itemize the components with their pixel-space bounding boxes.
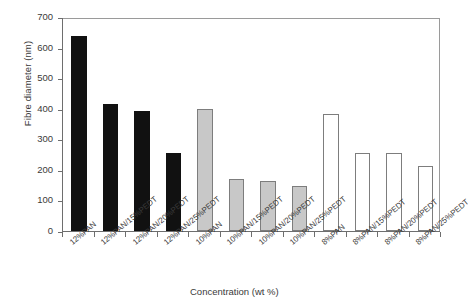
x-axis-tick-mark [157,232,158,237]
y-axis-tick-label: 100 [37,194,53,205]
y-axis-tick-label: 500 [37,72,53,83]
y-axis-tick-label: 400 [37,103,53,114]
x-axis-tick-mark [440,232,441,237]
bar [103,104,119,231]
x-axis-tick-mark [188,232,189,237]
x-axis-tick-mark [220,232,221,237]
bar [71,36,87,231]
y-axis-tick-label: 200 [37,164,53,175]
x-axis-tick-mark [346,232,347,237]
x-axis-title: Concentration (wt %) [190,286,279,297]
x-axis-tick-mark [314,232,315,237]
y-axis-tick-label: 700 [37,11,53,22]
x-axis-tick-mark [251,232,252,237]
bar [229,179,245,231]
x-axis-tick-mark [409,232,410,237]
x-axis-tick-mark [377,232,378,237]
x-axis-tick-mark [62,232,63,237]
y-axis-tick-label: 300 [37,133,53,144]
x-axis-tick-mark [125,232,126,237]
x-axis-tick-mark [283,232,284,237]
y-axis-tick-label: 0 [48,225,53,236]
y-axis-title: Fibre diameter (nm) [22,9,33,159]
bar [355,153,371,231]
plot-area [62,18,440,232]
y-axis-tick-label: 600 [37,42,53,53]
x-axis-tick-mark [94,232,95,237]
